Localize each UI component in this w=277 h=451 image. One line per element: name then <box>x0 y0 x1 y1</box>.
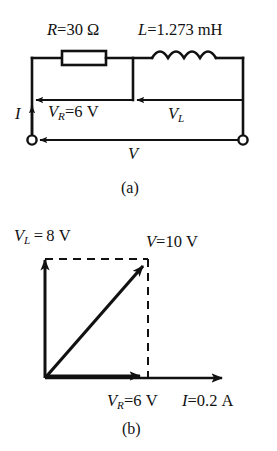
circuit-vl-label: VL <box>168 106 184 123</box>
phasor-i-value: 0.2 <box>197 391 218 410</box>
left-terminal <box>27 135 36 144</box>
resistor-box <box>62 51 106 65</box>
resistor-unit: Ω <box>87 20 99 39</box>
figure-root: R=30 Ω L=1.273 mH VR=6 V VL I V (a) VL =… <box>0 0 277 451</box>
phasor-i-unit: A <box>222 391 234 410</box>
circuit-diagram <box>27 51 247 145</box>
phasor-vr-unit: V <box>146 391 158 410</box>
resistor-value: 30 <box>66 20 83 39</box>
phasor-diagram <box>45 259 222 380</box>
caption-a: (a) <box>121 180 139 196</box>
circuit-source-label: V <box>128 146 138 163</box>
resistor-symbol: R <box>47 20 57 39</box>
phasor-vl-value: 8 <box>46 226 54 245</box>
phasor-i-equals: = <box>188 391 197 410</box>
right-terminal <box>238 135 247 144</box>
caption-b: (b) <box>122 421 141 437</box>
phasor-current-label: I=0.2 A <box>182 393 233 410</box>
phasor-v-label: V=10 V <box>146 234 198 251</box>
circuit-current-label: I <box>15 106 21 123</box>
phasor-v-vector <box>45 266 143 378</box>
phasor-vl-equals: = <box>34 226 43 245</box>
inductor-coil <box>152 52 216 59</box>
phasor-vr-symbol: V <box>107 391 117 410</box>
phasor-v-unit: V <box>186 232 198 251</box>
inductor-label: L=1.273 mH <box>138 22 223 39</box>
circuit-vr-subscript: R <box>58 110 65 122</box>
phasor-v-equals: = <box>156 232 165 251</box>
phasor-vr-subscript: R <box>117 399 124 411</box>
resistor-equals: = <box>57 20 66 39</box>
circuit-vr-value: 6 <box>74 102 82 121</box>
phasor-vr-equals: = <box>124 391 133 410</box>
inductor-value: 1.273 <box>157 20 194 39</box>
circuit-vl-symbol: V <box>168 104 178 123</box>
inductor-equals: = <box>147 20 156 39</box>
phasor-vl-symbol: V <box>14 226 24 245</box>
phasor-vr-label: VR=6 V <box>107 393 158 410</box>
resistor-label: R=30 Ω <box>47 22 99 39</box>
circuit-vr-label: VR=6 V <box>48 104 99 121</box>
phasor-vl-subscript: L <box>24 234 30 246</box>
phasor-vl-unit: V <box>59 226 71 245</box>
circuit-vr-unit: V <box>87 102 99 121</box>
circuit-vr-symbol: V <box>48 102 58 121</box>
phasor-v-symbol: V <box>146 232 156 251</box>
circuit-vl-subscript: L <box>178 112 184 124</box>
inductor-unit: mH <box>198 20 223 39</box>
inductor-symbol: L <box>138 20 147 39</box>
phasor-v-value: 10 <box>165 232 182 251</box>
circuit-vr-equals: = <box>65 102 74 121</box>
phasor-vl-label: VL = 8 V <box>14 228 71 245</box>
phasor-vr-value: 6 <box>133 391 141 410</box>
